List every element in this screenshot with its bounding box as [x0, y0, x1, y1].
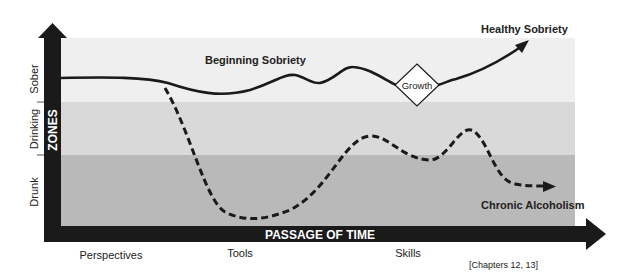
- zone-label-sober: Sober: [28, 64, 40, 94]
- drinking-zone: [60, 102, 575, 155]
- x-axis-title: PASSAGE OF TIME: [265, 228, 375, 242]
- beginning-sobriety-label: Beginning Sobriety: [205, 54, 307, 66]
- chronic-alcoholism-label: Chronic Alcoholism: [481, 199, 585, 211]
- x-label-tools: Tools: [227, 247, 253, 259]
- zone-label-drunk: Drunk: [28, 177, 40, 207]
- x-label-perspectives: Perspectives: [80, 249, 143, 261]
- y-axis-title: ZONES: [46, 109, 60, 150]
- drunk-zone: [60, 155, 575, 227]
- zone-label-drinking: Drinking: [28, 109, 40, 149]
- x-label-skills: Skills: [395, 247, 421, 259]
- growth-label: Growth: [402, 80, 433, 91]
- chapters-footnote: [Chapters 12, 13]: [469, 260, 538, 270]
- sober-zone: [60, 38, 575, 102]
- sobriety-zones-diagram: ZONES Sober Drinking Drunk PASSAGE OF TI…: [0, 0, 621, 276]
- healthy-sobriety-label: Healthy Sobriety: [481, 23, 569, 35]
